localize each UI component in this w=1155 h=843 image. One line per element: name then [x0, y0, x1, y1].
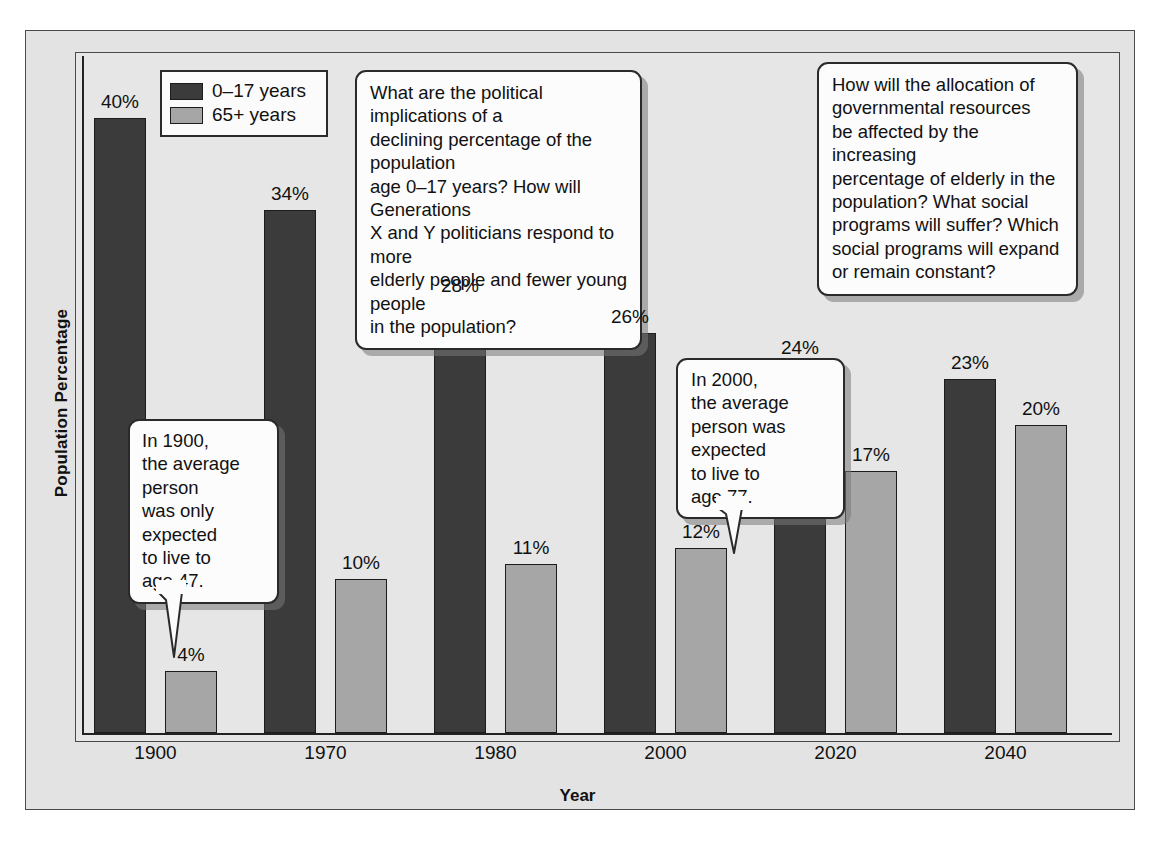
bar-label-young-2000: 26%	[611, 306, 649, 328]
x-tick-label-1980: 1980	[474, 742, 516, 764]
x-tick-label-2000: 2000	[644, 742, 686, 764]
bar-label-old-1900: 4%	[177, 644, 204, 666]
callout-young-text: What are the political implications of a…	[370, 81, 628, 338]
callout-life-expectancy-1900: In 1900, the average person was only exp…	[128, 419, 279, 604]
bar-old-1970	[335, 579, 387, 733]
legend-item-young: 0–17 years	[170, 80, 318, 102]
bar-label-young-1900: 40%	[101, 91, 139, 113]
legend-item-old: 65+ years	[170, 104, 318, 126]
legend-label-old: 65+ years	[212, 104, 296, 126]
legend-swatch-young-icon	[170, 83, 203, 100]
bar-young-1980	[434, 302, 486, 733]
callout-young-question: What are the political implications of a…	[355, 70, 642, 350]
bar-label-young-2020: 24%	[781, 337, 819, 359]
bar-young-2000	[604, 333, 656, 733]
bar-label-young-1980: 28%	[441, 275, 479, 297]
x-tick-label-2040: 2040	[984, 742, 1026, 764]
bar-young-2040	[944, 379, 996, 733]
callout-elderly-text: How will the allocation of governmental …	[832, 73, 1064, 284]
bar-old-1900	[165, 671, 217, 733]
x-tick-label-2020: 2020	[814, 742, 856, 764]
bar-old-2020	[845, 471, 897, 733]
legend-label-young: 0–17 years	[212, 80, 306, 102]
legend-swatch-old-icon	[170, 107, 203, 124]
bar-label-old-2000: 12%	[682, 521, 720, 543]
x-tick-label-1900: 1900	[134, 742, 176, 764]
chart-page: Population Percentage Year 0–17 years 65…	[0, 0, 1155, 843]
bar-label-young-2040: 23%	[951, 352, 989, 374]
bar-label-young-1970: 34%	[271, 183, 309, 205]
bar-old-1980	[505, 564, 557, 733]
callout-1900-text: In 1900, the average person was only exp…	[142, 429, 267, 593]
x-axis-line	[82, 733, 1112, 735]
x-tick-label-1970: 1970	[304, 742, 346, 764]
bar-label-old-1970: 10%	[342, 552, 380, 574]
chart-legend: 0–17 years 65+ years	[160, 70, 328, 137]
bar-old-2000	[675, 548, 727, 733]
x-axis-title: Year	[0, 786, 1155, 806]
callout-2000-text: In 2000, the average person was expected…	[691, 368, 833, 508]
bar-label-old-2040: 20%	[1022, 398, 1060, 420]
bar-label-old-1980: 11%	[513, 537, 550, 559]
bar-old-2040	[1015, 425, 1067, 733]
bar-label-old-2020: 17%	[852, 444, 890, 466]
y-axis-title: Population Percentage	[52, 253, 72, 553]
callout-elderly-question: How will the allocation of governmental …	[817, 62, 1078, 296]
callout-life-expectancy-2000: In 2000, the average person was expected…	[676, 358, 845, 519]
